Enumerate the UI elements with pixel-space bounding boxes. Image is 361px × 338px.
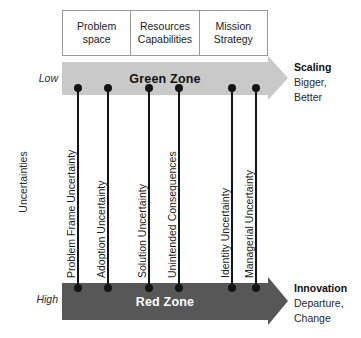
red-zone-band: Red Zone	[62, 283, 268, 320]
red-zone-label: Red Zone	[136, 295, 195, 309]
uncertainty-connector: Solution Uncertainty	[148, 88, 149, 288]
uncertainty-connector: Adoption Uncertainty	[107, 88, 108, 288]
red-zone-arrow-icon	[268, 277, 288, 325]
connector-dot-bottom-icon	[228, 284, 236, 292]
header-cell-line2: Capabilities	[138, 33, 192, 46]
outcome-innovation: Innovation Departure, Change	[294, 281, 360, 325]
connector-dot-top-icon	[228, 84, 236, 92]
connector-dot-top-icon	[145, 84, 153, 92]
outcome-scaling-line1: Bigger,	[294, 75, 360, 89]
uncertainty-label: Identity Uncertainty	[219, 188, 231, 282]
connector-dot-top-icon	[104, 84, 112, 92]
connector-dot-bottom-icon	[104, 284, 112, 292]
connector-stem	[178, 88, 180, 288]
uncertainties-axis-label: Uncertainties	[17, 112, 29, 252]
uncertainty-connector: Unintended Consequences	[178, 88, 179, 288]
outcome-scaling-title: Scaling	[294, 60, 360, 74]
connector-dot-bottom-icon	[175, 284, 183, 292]
header-cell-line1: Resources	[140, 20, 190, 33]
outcome-innovation-title: Innovation	[294, 281, 360, 295]
outcome-scaling-line2: Better	[294, 90, 360, 104]
uncertainty-label: Adoption Uncertainty	[95, 181, 107, 282]
scale-marker-low: Low	[12, 72, 58, 84]
connector-dot-top-icon	[74, 84, 82, 92]
green-zone-label: Green Zone	[129, 72, 200, 86]
connector-stem	[77, 88, 79, 288]
header-category-boxes: Problem space Resources Capabilities Mis…	[62, 10, 268, 56]
uncertainty-connector: Managerial Uncertainty	[255, 88, 256, 288]
green-zone-band: Green Zone	[62, 62, 268, 95]
outcome-innovation-line2: Change	[294, 311, 360, 325]
header-cell-line2: Strategy	[214, 33, 253, 46]
header-cell-resources-capabilities: Resources Capabilities	[130, 11, 198, 55]
connector-dot-bottom-icon	[145, 284, 153, 292]
outcome-scaling: Scaling Bigger, Better	[294, 60, 360, 104]
header-cell-line1: Problem	[77, 20, 116, 33]
outcome-innovation-line1: Departure,	[294, 296, 360, 310]
connector-dot-bottom-icon	[252, 284, 260, 292]
connector-dot-bottom-icon	[74, 284, 82, 292]
uncertainty-connector: Problem Frame Uncertainty	[77, 88, 78, 288]
connector-stem	[107, 88, 109, 288]
uncertainty-label: Managerial Uncertainty	[243, 170, 255, 282]
uncertainty-label: Problem Frame Uncertainty	[65, 150, 77, 282]
connector-stem	[231, 88, 233, 288]
connector-dot-top-icon	[252, 84, 260, 92]
header-cell-problem-space: Problem space	[63, 11, 130, 55]
connector-stem	[148, 88, 150, 288]
uncertainty-zones-diagram: Problem space Resources Capabilities Mis…	[0, 0, 361, 338]
green-zone-arrow-icon	[268, 56, 288, 100]
header-cell-line1: Mission	[216, 20, 252, 33]
uncertainty-label: Solution Uncertainty	[136, 184, 148, 282]
header-cell-line2: space	[83, 33, 111, 46]
scale-marker-high: High	[12, 293, 58, 305]
uncertainty-connector: Identity Uncertainty	[231, 88, 232, 288]
connector-stem	[255, 88, 257, 288]
header-cell-mission-strategy: Mission Strategy	[199, 11, 267, 55]
connector-dot-top-icon	[175, 84, 183, 92]
uncertainty-label: Unintended Consequences	[166, 151, 178, 282]
